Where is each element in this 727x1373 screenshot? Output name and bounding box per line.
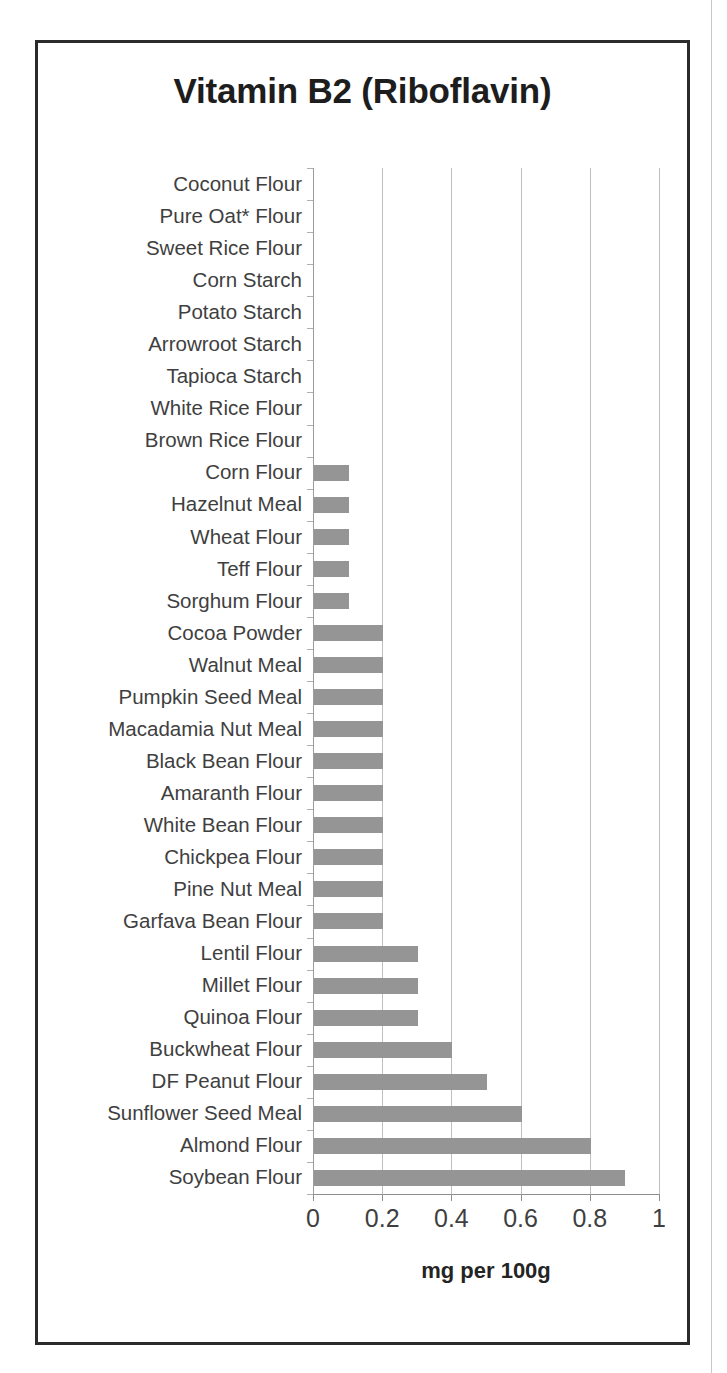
bar[interactable]	[314, 1042, 452, 1058]
bar-row[interactable]	[313, 168, 659, 200]
category-label: Black Bean Flour	[38, 745, 313, 777]
bar-row[interactable]	[313, 681, 659, 713]
bar-row[interactable]	[313, 553, 659, 585]
bar-row[interactable]	[313, 841, 659, 873]
category-label: Garfava Bean Flour	[38, 905, 313, 937]
bar[interactable]	[314, 497, 349, 513]
category-label: Corn Flour	[38, 456, 313, 488]
category-label: Almond Flour	[38, 1129, 313, 1161]
bar-row[interactable]	[313, 296, 659, 328]
value-tick-label: 0.2	[365, 1204, 400, 1233]
value-tick	[590, 1194, 591, 1201]
bar-row[interactable]	[313, 1002, 659, 1034]
bar-row[interactable]	[313, 1034, 659, 1066]
category-axis-labels: Coconut FlourPure Oat* FlourSweet Rice F…	[38, 168, 313, 1194]
chart-container: Vitamin B2 (Riboflavin) Coconut FlourPur…	[35, 40, 690, 1345]
bar[interactable]	[314, 849, 383, 865]
bar-row[interactable]	[313, 425, 659, 457]
bar[interactable]	[314, 1074, 487, 1090]
bar[interactable]	[314, 946, 418, 962]
bar[interactable]	[314, 1138, 591, 1154]
value-tick-label: 0.4	[434, 1204, 469, 1233]
bars-layer	[313, 168, 659, 1194]
gridline	[659, 168, 660, 1194]
bar-row[interactable]	[313, 1066, 659, 1098]
bar[interactable]	[314, 881, 383, 897]
bar-row[interactable]	[313, 873, 659, 905]
bar-row[interactable]	[313, 905, 659, 937]
category-label: Arrowroot Starch	[38, 328, 313, 360]
bar-row[interactable]	[313, 809, 659, 841]
bar-row[interactable]	[313, 938, 659, 970]
category-label: Cocoa Powder	[38, 617, 313, 649]
bar-row[interactable]	[313, 328, 659, 360]
category-label: DF Peanut Flour	[38, 1065, 313, 1097]
bar[interactable]	[314, 465, 349, 481]
category-label: Wheat Flour	[38, 521, 313, 553]
bar-row[interactable]	[313, 200, 659, 232]
plot-region: Coconut FlourPure Oat* FlourSweet Rice F…	[38, 168, 687, 1198]
category-label: Sorghum Flour	[38, 585, 313, 617]
bar[interactable]	[314, 817, 383, 833]
bar-row[interactable]	[313, 649, 659, 681]
bar-row[interactable]	[313, 777, 659, 809]
bar[interactable]	[314, 721, 383, 737]
bar-row[interactable]	[313, 1130, 659, 1162]
bar-row[interactable]	[313, 1162, 659, 1194]
bar-row[interactable]	[313, 489, 659, 521]
bar[interactable]	[314, 625, 383, 641]
category-label: Tapioca Starch	[38, 360, 313, 392]
category-label: Potato Starch	[38, 296, 313, 328]
value-tick	[521, 1194, 522, 1201]
category-label: White Rice Flour	[38, 392, 313, 424]
bar-row[interactable]	[313, 521, 659, 553]
bar[interactable]	[314, 913, 383, 929]
bar[interactable]	[314, 978, 418, 994]
bar[interactable]	[314, 1010, 418, 1026]
bar-row[interactable]	[313, 713, 659, 745]
bar-row[interactable]	[313, 392, 659, 424]
bar-row[interactable]	[313, 970, 659, 1002]
bar-row[interactable]	[313, 745, 659, 777]
bar-row[interactable]	[313, 232, 659, 264]
category-label: Amaranth Flour	[38, 777, 313, 809]
bar-row[interactable]	[313, 360, 659, 392]
category-label: Pure Oat* Flour	[38, 200, 313, 232]
value-tick-label: 0.8	[572, 1204, 607, 1233]
bar[interactable]	[314, 1106, 522, 1122]
bar-row[interactable]	[313, 585, 659, 617]
category-label: Macadamia Nut Meal	[38, 713, 313, 745]
bar[interactable]	[314, 529, 349, 545]
chart-title: Vitamin B2 (Riboflavin)	[38, 71, 687, 111]
bar-row[interactable]	[313, 617, 659, 649]
category-label: Millet Flour	[38, 969, 313, 1001]
category-label: Brown Rice Flour	[38, 424, 313, 456]
plot-canvas	[313, 168, 659, 1194]
bar-row[interactable]	[313, 457, 659, 489]
category-label: Quinoa Flour	[38, 1001, 313, 1033]
category-label: Coconut Flour	[38, 168, 313, 200]
category-label: White Bean Flour	[38, 809, 313, 841]
value-axis	[313, 1194, 659, 1195]
category-label: Chickpea Flour	[38, 841, 313, 873]
bar[interactable]	[314, 593, 349, 609]
category-label: Hazelnut Meal	[38, 488, 313, 520]
value-tick	[659, 1194, 660, 1201]
bar-row[interactable]	[313, 1098, 659, 1130]
value-tick-label: 1	[652, 1204, 666, 1233]
category-label: Sweet Rice Flour	[38, 232, 313, 264]
bar[interactable]	[314, 785, 383, 801]
bar[interactable]	[314, 1170, 625, 1186]
bar-row[interactable]	[313, 264, 659, 296]
bar[interactable]	[314, 689, 383, 705]
bar[interactable]	[314, 561, 349, 577]
value-tick	[451, 1194, 452, 1201]
value-axis-tick-labels: 00.20.40.60.81	[313, 1204, 659, 1238]
bar[interactable]	[314, 657, 383, 673]
value-tick-label: 0	[306, 1204, 320, 1233]
bar[interactable]	[314, 753, 383, 769]
category-label: Lentil Flour	[38, 937, 313, 969]
category-label: Walnut Meal	[38, 649, 313, 681]
category-label: Soybean Flour	[38, 1161, 313, 1193]
category-label: Corn Starch	[38, 264, 313, 296]
